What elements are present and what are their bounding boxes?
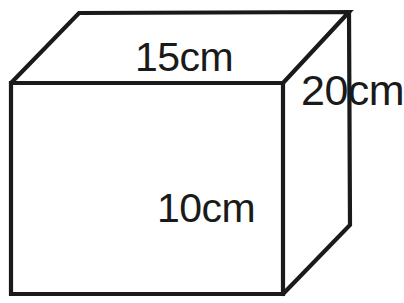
width-dimension-label: 15cm xyxy=(135,37,233,78)
right-face-edges xyxy=(283,12,350,294)
depth-dimension-label: 20cm xyxy=(301,69,404,112)
height-dimension-label: 10cm xyxy=(157,188,255,229)
